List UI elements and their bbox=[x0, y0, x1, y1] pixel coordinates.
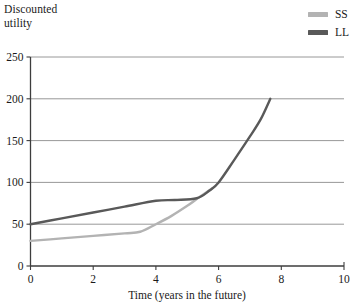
series-lines bbox=[31, 99, 271, 241]
y-tick-label: 0 bbox=[18, 260, 24, 272]
x-tick-label: 0 bbox=[28, 273, 34, 285]
y-tick-label: 150 bbox=[6, 135, 24, 147]
plot-area: 250200150100500 0246810 Time (years in t… bbox=[0, 0, 351, 305]
x-tick-label: 6 bbox=[216, 273, 222, 285]
x-tick-label: 10 bbox=[338, 273, 350, 285]
y-tick-labels: 250200150100500 bbox=[6, 51, 24, 272]
x-tick-label: 2 bbox=[90, 273, 96, 285]
series-line-ll bbox=[31, 99, 271, 224]
chart-container: Discounted utility SS LL 250200150100500… bbox=[0, 0, 351, 305]
y-tick-label: 100 bbox=[6, 176, 24, 188]
series-line-ss bbox=[31, 188, 213, 241]
y-tick-label: 200 bbox=[6, 93, 24, 105]
y-tick-label: 50 bbox=[12, 218, 24, 230]
x-axis-title: Time (years in the future) bbox=[128, 289, 246, 302]
gridlines bbox=[31, 57, 345, 266]
y-tick-label: 250 bbox=[6, 51, 24, 63]
x-tick-labels: 0246810 bbox=[28, 273, 350, 285]
x-tick-label: 8 bbox=[278, 273, 284, 285]
x-tick-label: 4 bbox=[153, 273, 159, 285]
